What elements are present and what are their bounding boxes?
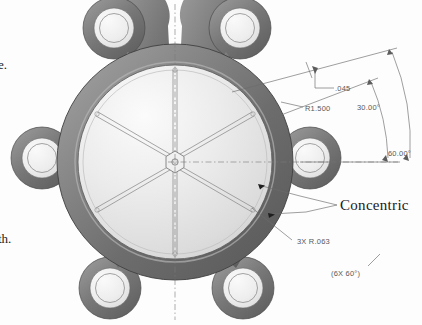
dimension-label-angle-full: 60.00° xyxy=(388,149,411,158)
boss-counterbore xyxy=(22,138,62,178)
dimension-label-radius-fillet: .045 xyxy=(335,84,350,93)
figure-canvas: .045 R1.500 30.00° 60.00° 3X R.063 (6X 6… xyxy=(0,0,422,325)
boss-counterbore xyxy=(223,268,263,308)
hub-solid-body xyxy=(11,0,341,319)
dimension-label-pattern-note: (6X 60°) xyxy=(331,269,360,278)
arrow-045 xyxy=(312,66,318,74)
dimension-label-angle-half: 30.00° xyxy=(357,103,380,112)
boss-counterbore xyxy=(94,8,134,48)
dimension-label-radius-small: 3X R.063 xyxy=(297,237,330,246)
leader-045 xyxy=(315,72,334,88)
tick-045-a xyxy=(306,62,312,78)
boss-counterbore xyxy=(290,138,330,178)
callout-label-concentric: Concentric xyxy=(340,197,409,214)
dimension-label-radius-major: R1.500 xyxy=(305,104,330,113)
leader-r1500 xyxy=(281,102,303,107)
page-text-fragment-bottom: th. xyxy=(0,231,11,247)
leader-6x60 xyxy=(368,254,380,266)
angle-arc-30 xyxy=(371,82,388,158)
page-text-fragment-top: e. xyxy=(0,57,7,73)
extension-line-30deg xyxy=(268,78,378,120)
boss-counterbore xyxy=(90,268,130,308)
angle-arc-60 xyxy=(392,52,410,158)
boss-counterbore xyxy=(220,8,260,48)
